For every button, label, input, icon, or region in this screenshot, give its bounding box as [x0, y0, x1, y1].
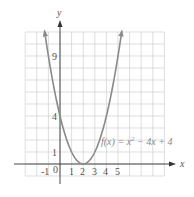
y-axis-arrow-icon	[58, 20, 63, 27]
x-axis: x	[14, 158, 185, 169]
x-axis-label: x	[179, 158, 185, 169]
x-tick-label: 3	[92, 166, 97, 177]
grid	[25, 32, 164, 176]
y-tick-label: 4	[52, 111, 57, 122]
x-tick-label: 4	[103, 166, 108, 177]
y-axis-label: y	[56, 7, 62, 18]
y-tick-label: 9	[52, 51, 57, 62]
x-tick-labels: -1 0 1 2 3 4 5	[41, 164, 120, 177]
parabola-chart: x y -1 0 1 2 3 4 5 1 4 9 f(x) = x2 − 4x …	[0, 0, 194, 197]
curve-arrow-left-icon	[43, 29, 48, 36]
x-tick-label: 2	[80, 166, 85, 177]
x-tick-label: 5	[115, 166, 120, 177]
x-tick-label: 0	[53, 164, 58, 175]
curve-arrow-right-icon	[118, 29, 123, 36]
x-tick-label: -1	[41, 166, 49, 177]
function-label: f(x) = x2 − 4x + 4	[101, 135, 173, 148]
y-tick-label: 1	[52, 147, 57, 158]
x-axis-arrow-icon	[169, 162, 176, 167]
x-tick-label: 1	[69, 166, 74, 177]
y-tick-labels: 1 4 9	[52, 51, 57, 158]
